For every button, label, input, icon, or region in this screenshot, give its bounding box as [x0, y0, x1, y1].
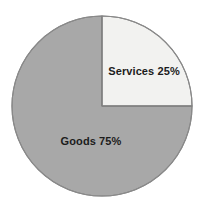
pie-label-goods: Goods 75%	[61, 136, 122, 147]
pie-label-services: Services 25%	[108, 66, 180, 77]
pie-chart: Services 25% Goods 75%	[0, 0, 204, 215]
pie-chart-graphic	[0, 0, 204, 215]
pie-slice-services[interactable]	[102, 16, 192, 106]
